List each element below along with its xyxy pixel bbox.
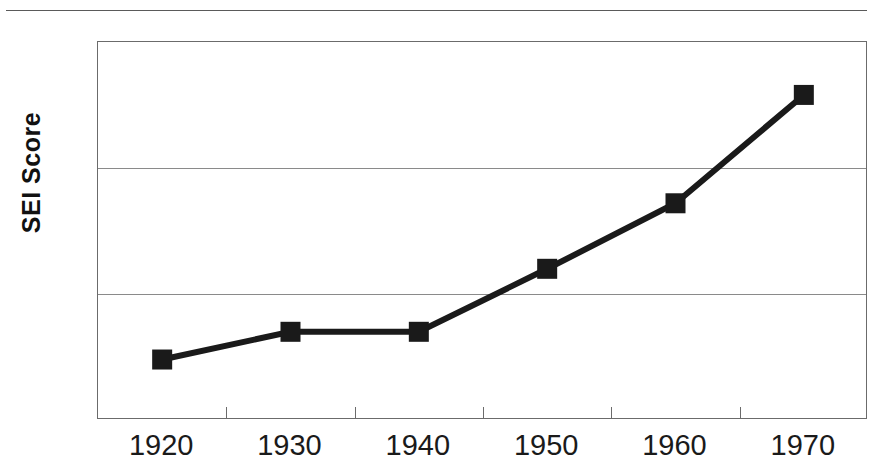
x-tick-label-1960: 1960	[605, 429, 745, 462]
data-point-1960	[666, 193, 686, 213]
data-point-1970	[794, 85, 814, 105]
x-tick-label-1920: 1920	[91, 429, 231, 462]
series-marker-group	[152, 85, 814, 370]
plot-area	[97, 41, 867, 419]
x-tick-label-1950: 1950	[476, 429, 616, 462]
x-tick-label-1930: 1930	[220, 429, 360, 462]
data-point-1950	[537, 259, 557, 279]
data-point-1940	[409, 322, 429, 342]
x-tick-label-1970: 1970	[733, 429, 873, 462]
series-line	[162, 95, 804, 360]
series-sei-score	[98, 42, 868, 420]
chart-figure: SEI Score 40353025 192019301940195019601…	[0, 0, 873, 471]
data-point-1930	[281, 322, 301, 342]
x-tick-label-1940: 1940	[348, 429, 488, 462]
data-point-1920	[152, 350, 172, 370]
